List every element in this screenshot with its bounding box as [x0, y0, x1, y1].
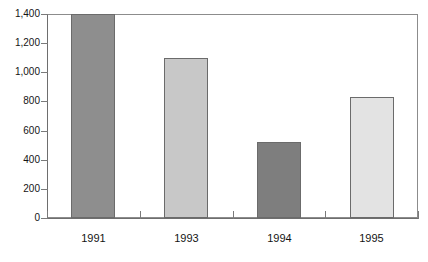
- cropped-chart-title: [150, 0, 280, 5]
- y-axis-tick: [41, 189, 48, 190]
- y-axis-tick-label: 600: [2, 126, 40, 136]
- y-axis-tick-label-wrap: 1,400: [0, 14, 40, 15]
- y-axis-tick-label: 200: [2, 184, 40, 194]
- x-axis-label-1995: 1995: [325, 232, 418, 244]
- bar-chart: 02004006008001,0001,2001,400 19911993199…: [0, 0, 428, 262]
- y-axis-tick-label-wrap: 400: [0, 160, 40, 161]
- x-axis-label-1991: 1991: [47, 232, 140, 244]
- y-axis-tick-label: 1,200: [2, 38, 40, 48]
- x-axis-tick: [233, 211, 234, 219]
- x-axis-tick: [325, 211, 326, 219]
- y-axis-tick: [41, 14, 48, 15]
- bar-1993: [164, 58, 208, 218]
- y-axis-tick-label-wrap: 0: [0, 218, 40, 219]
- y-axis-tick-label: 800: [2, 96, 40, 106]
- y-axis-tick-label: 1,400: [2, 9, 40, 19]
- y-axis-tick-label: 0: [2, 213, 40, 223]
- x-axis-label-1994: 1994: [233, 232, 326, 244]
- y-axis-tick-label-wrap: 800: [0, 101, 40, 102]
- y-axis-tick-label: 400: [2, 155, 40, 165]
- y-axis-tick: [41, 72, 48, 73]
- x-axis-tick: [418, 211, 419, 219]
- y-axis-tick-label: 1,000: [2, 67, 40, 77]
- bar-1991: [71, 14, 115, 218]
- y-axis-tick-label-wrap: 600: [0, 131, 40, 132]
- y-axis-tick: [41, 43, 48, 44]
- y-axis-tick-label-wrap: 1,000: [0, 72, 40, 73]
- bar-1994: [257, 142, 301, 218]
- bar-1995: [350, 97, 394, 218]
- y-axis-tick: [41, 131, 48, 132]
- x-axis-tick: [47, 211, 48, 219]
- y-axis-tick-label-wrap: 1,200: [0, 43, 40, 44]
- y-axis-tick: [41, 160, 48, 161]
- x-axis-tick: [140, 211, 141, 219]
- x-axis-label-1993: 1993: [140, 232, 233, 244]
- y-axis-tick: [41, 101, 48, 102]
- y-axis-tick-label-wrap: 200: [0, 189, 40, 190]
